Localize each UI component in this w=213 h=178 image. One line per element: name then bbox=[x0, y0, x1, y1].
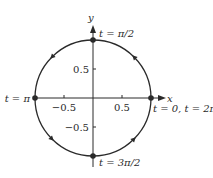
x-axis-label: x bbox=[167, 93, 173, 104]
y-tick-label: −0.5 bbox=[65, 122, 89, 133]
x-tick-label: 0.5 bbox=[114, 102, 130, 113]
point-label-t_half_pi: t = π/2 bbox=[99, 28, 134, 39]
point-label-t_pi: t = π bbox=[5, 93, 31, 104]
point-marker-t_half_pi bbox=[90, 37, 96, 43]
y-axis-arrowhead bbox=[90, 25, 96, 33]
axes bbox=[33, 25, 166, 167]
y-tick-label: 0.5 bbox=[73, 64, 89, 75]
x-axis-arrowhead bbox=[158, 95, 166, 101]
point-marker-t_pi bbox=[32, 95, 38, 101]
point-label-t_3half_pi: t = 3π/2 bbox=[99, 157, 140, 168]
point-marker-t_3half_pi bbox=[90, 153, 96, 159]
point-label-t0: t = 0, t = 2π bbox=[153, 103, 213, 114]
point-marker-t0 bbox=[148, 95, 154, 101]
unit-circle-diagram: −0.50.50.5−0.5 t = 0, t = 2πt = π/2t = π… bbox=[0, 0, 213, 178]
x-tick-label: −0.5 bbox=[52, 102, 76, 113]
y-axis-label: y bbox=[87, 12, 94, 23]
